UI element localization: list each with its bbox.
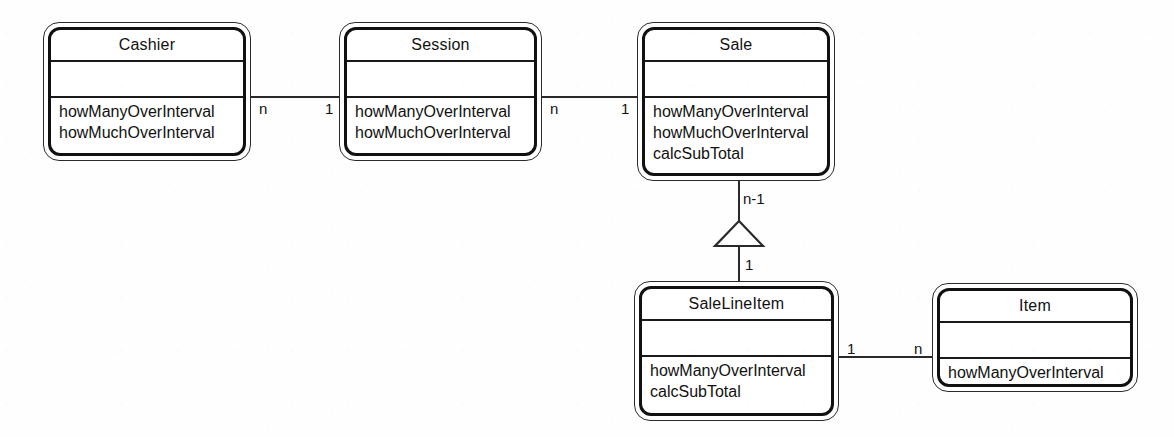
generalization-line-lower[interactable] (738, 246, 740, 282)
class-name-cashier: Cashier (51, 30, 243, 62)
class-box-item[interactable]: Item howManyOverInterval (932, 283, 1138, 392)
operation-item: howManyOverInterval (59, 101, 243, 122)
class-name-session: Session (347, 30, 534, 62)
operation-item: howMuchOverInterval (653, 122, 827, 143)
class-body-sale: Sale howManyOverInterval howMuchOverInte… (642, 27, 830, 176)
class-attributes-item (940, 323, 1130, 359)
multiplicity-session-sale-target: 1 (621, 100, 629, 117)
class-name-item: Item (940, 291, 1130, 323)
class-name-salelineitem: SaleLineItem (642, 289, 831, 321)
multiplicity-sale-salelineitem-target: 1 (745, 256, 753, 273)
generalization-hollow-triangle-icon (712, 219, 766, 249)
class-box-cashier[interactable]: Cashier howManyOverInterval howMuchOverI… (43, 22, 251, 161)
class-box-salelineitem[interactable]: SaleLineItem howManyOverInterval calcSub… (634, 281, 839, 421)
class-operations-cashier: howManyOverInterval howMuchOverInterval (51, 98, 243, 153)
class-box-session[interactable]: Session howManyOverInterval howMuchOverI… (339, 22, 542, 161)
class-box-sale[interactable]: Sale howManyOverInterval howMuchOverInte… (637, 22, 835, 181)
class-operations-salelineitem: howManyOverInterval calcSubTotal (642, 357, 831, 413)
class-body-salelineitem: SaleLineItem howManyOverInterval calcSub… (639, 286, 834, 416)
operation-item: howMuchOverInterval (355, 122, 534, 143)
multiplicity-sale-salelineitem-source: n-1 (743, 190, 765, 207)
operation-item: howManyOverInterval (653, 101, 827, 122)
operation-item: howMuchOverInterval (59, 122, 243, 143)
operation-item: howManyOverInterval (355, 101, 534, 122)
class-operations-session: howManyOverInterval howMuchOverInterval (347, 98, 534, 153)
class-name-sale: Sale (645, 30, 827, 62)
operation-item: calcSubTotal (650, 381, 831, 402)
multiplicity-session-sale-source: n (550, 100, 558, 117)
association-line-session-sale[interactable] (542, 96, 638, 98)
multiplicity-cashier-session-target: 1 (325, 100, 333, 117)
uml-class-diagram-canvas: Cashier howManyOverInterval howMuchOverI… (0, 0, 1174, 437)
operation-item: calcSubTotal (653, 143, 827, 164)
class-attributes-cashier (51, 62, 243, 98)
generalization-line-upper[interactable] (738, 181, 740, 223)
operation-item: howManyOverInterval (948, 362, 1130, 383)
class-body-session: Session howManyOverInterval howMuchOverI… (344, 27, 537, 156)
class-operations-sale: howManyOverInterval howMuchOverInterval … (645, 98, 827, 173)
multiplicity-salelineitem-item-target: n (914, 340, 922, 357)
class-attributes-salelineitem (642, 321, 831, 357)
class-body-item: Item howManyOverInterval (937, 288, 1133, 387)
operation-item: howManyOverInterval (650, 360, 831, 381)
class-body-cashier: Cashier howManyOverInterval howMuchOverI… (48, 27, 246, 156)
class-attributes-sale (645, 62, 827, 98)
class-operations-item: howManyOverInterval (940, 359, 1130, 384)
multiplicity-cashier-session-source: n (259, 100, 267, 117)
association-line-cashier-session[interactable] (251, 96, 340, 98)
multiplicity-salelineitem-item-source: 1 (847, 340, 855, 357)
class-attributes-session (347, 62, 534, 98)
